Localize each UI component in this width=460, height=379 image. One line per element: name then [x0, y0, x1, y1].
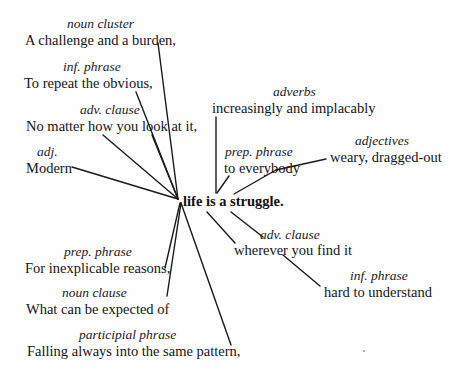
label-inf-phrase-2: inf. phrase	[350, 269, 408, 283]
phrase-adjectives: weary, dragged-out	[330, 149, 442, 165]
connector-adv-clause-2b	[231, 212, 263, 237]
label-noun-cluster: noun cluster	[67, 17, 134, 31]
label-prep-phrase-2: prep. phrase	[225, 145, 293, 159]
phrase-participial-phrase: Falling always into the same pattern,	[27, 343, 240, 359]
phrase-prep-phrase-1: For inexplicable reasons,	[25, 260, 170, 276]
label-inf-phrase-1: inf. phrase	[63, 60, 121, 74]
connector-adj	[72, 167, 178, 199]
connector-lines	[0, 0, 460, 379]
phrase-adj: Modern	[26, 160, 72, 176]
connector-adv-clause-1a	[103, 135, 178, 199]
connector-participial-phrase	[181, 203, 231, 345]
label-adj: adj.	[37, 145, 58, 159]
phrase-noun-cluster: A challenge and a burden,	[25, 32, 176, 48]
phrase-adverbs: increasingly and implacably	[212, 100, 375, 116]
label-prep-phrase-1: prep. phrase	[64, 245, 132, 259]
phrase-noun-clause: What can be expected of	[26, 301, 169, 317]
phrase-adv-clause-1: No matter how you look at it,	[26, 118, 197, 134]
label-noun-clause: noun clause	[62, 286, 127, 300]
connector-inf-phrase-2	[283, 255, 320, 286]
label-adv-clause-1: adv. clause	[80, 103, 140, 117]
sentence-diagram: noun cluster A challenge and a burden, i…	[0, 0, 460, 379]
phrase-adv-clause-2: wherever you find it	[234, 242, 352, 258]
label-participial-phrase: participial phrase	[79, 328, 176, 342]
label-adverbs: adverbs	[273, 85, 316, 99]
connector-prep-phrase-2	[217, 176, 229, 193]
connector-adv-clause-2	[207, 212, 235, 243]
phrase-inf-phrase-2: hard to understand	[324, 284, 432, 300]
phrase-inf-phrase-1: To repeat the obvious,	[24, 75, 153, 91]
phrase-prep-phrase-2: to everybody	[224, 160, 300, 176]
label-adv-clause-2: adv. clause	[260, 228, 320, 242]
label-adjectives: adjectives	[355, 134, 409, 148]
stray-dot	[363, 350, 365, 352]
core-sentence: life is a struggle.	[183, 193, 284, 209]
